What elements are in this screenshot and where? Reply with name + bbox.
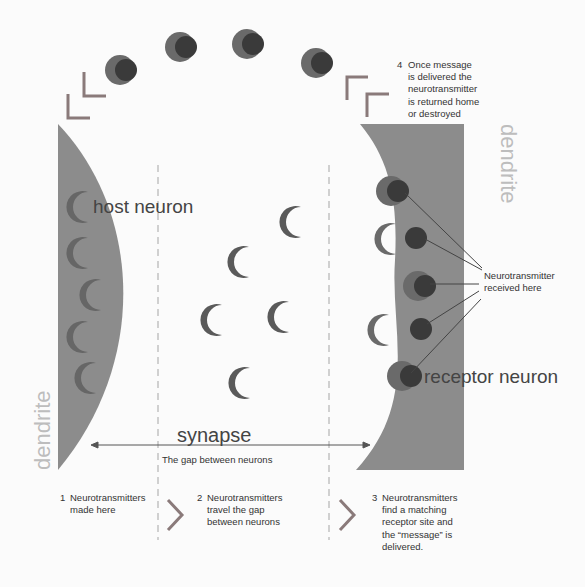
step-chevron-icon	[168, 500, 182, 530]
chevron-icon	[367, 94, 389, 117]
return-arrow-left	[68, 72, 106, 118]
step-number: 3	[372, 492, 377, 503]
receptor-neuron-label: receptor neuron	[424, 366, 558, 388]
synapse-label: synapse	[177, 424, 252, 447]
step-number: 4	[397, 59, 402, 70]
crescent-icon	[200, 304, 222, 336]
step-text: Neurotransmitters made here	[70, 492, 146, 516]
crescent-icon	[227, 246, 249, 278]
step-number: 1	[60, 492, 65, 503]
step-chevron-icon	[340, 500, 354, 530]
return-arrow-right	[347, 77, 389, 117]
crescent-icon	[279, 206, 301, 238]
receptor-site	[405, 227, 427, 249]
host-neuron-label: host neuron	[93, 196, 193, 218]
crescent-icon	[374, 223, 396, 255]
synapse-diagram: host neuron receptor neuron synapse The …	[0, 0, 585, 587]
step-text: Neurotransmitters travel the gap between…	[207, 492, 283, 529]
chevron-icon	[68, 94, 90, 118]
step-text: Neurotransmitters find a matching recept…	[382, 492, 458, 553]
step-text: Once message is delivered the neurotrans…	[408, 59, 479, 120]
traveling-neurotransmitters	[200, 206, 301, 399]
chevron-icon	[347, 77, 368, 100]
receptor-site	[410, 318, 432, 340]
dendrite-label-left: dendrite	[30, 390, 56, 470]
crescent-icon	[367, 314, 389, 346]
step-number: 2	[197, 492, 202, 503]
crescent-icon	[228, 367, 250, 399]
synapse-caption: The gap between neurons	[162, 454, 272, 465]
crescent-icon	[267, 301, 289, 333]
returning-neurotransmitters	[105, 29, 333, 85]
chevron-icon	[84, 72, 106, 96]
dendrite-label-right: dendrite	[495, 124, 521, 204]
received-callout-label: Neurotransmitter received here	[484, 270, 555, 294]
host-neuron-shape	[58, 124, 123, 470]
